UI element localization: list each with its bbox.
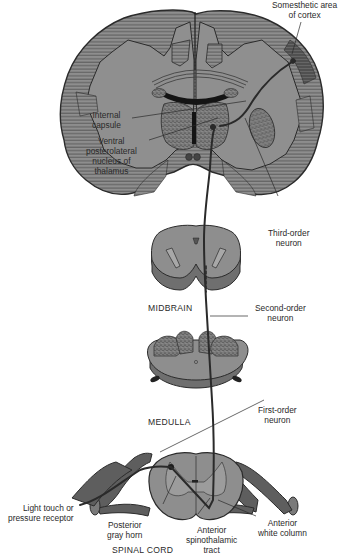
label-line: capsule [92,120,121,130]
label-line: nucleus of [86,156,137,166]
medulla-section [147,331,248,388]
label-line: Light touch or [8,503,74,513]
label-line: neuron [255,313,306,323]
label-anterior-white-column: Anterior white column [258,518,307,538]
label-line: Anterior [258,518,307,528]
neural-pathway-diagram [0,0,352,560]
label-internal-capsule: Internal capsule [92,110,121,130]
label-line: Anterior [186,525,237,535]
label-vpl-nucleus: Ventral posterolateral nucleus of thalam… [86,136,137,176]
label-line: Second-order [255,303,306,313]
region-label-midbrain: MIDBRAIN [148,303,192,313]
label-third-order-neuron: Third-order neuron [268,228,309,248]
label-line: Somesthetic area [272,0,337,10]
region-label-spinal-cord: SPINAL CORD [112,545,173,555]
label-line: gray horn [107,530,142,540]
label-line: spinothalamic [186,535,237,545]
label-line: thalamus [86,166,137,176]
label-line: neuron [258,415,297,425]
label-line: tract [186,545,237,555]
label-line: Internal [92,110,121,120]
label-anterior-spinothalamic-tract: Anterior spinothalamic tract [186,525,237,555]
label-somesthetic-area: Somesthetic area of cortex [272,0,337,20]
label-first-order-neuron: First-order neuron [258,405,297,425]
label-line: Posterior [107,520,142,530]
label-line: of cortex [272,10,337,20]
label-line: First-order [258,405,297,415]
label-line: Ventral [86,136,137,146]
label-line: pressure receptor [8,513,74,523]
label-line: posterolateral [86,146,137,156]
region-label-medulla: MEDULLA [148,417,191,427]
label-posterior-gray-horn: Posterior gray horn [107,520,142,540]
midbrain-section [151,225,240,290]
label-line: white column [258,528,307,538]
second-order-neuron-path [171,130,214,508]
label-receptor: Light touch or pressure receptor [8,503,74,523]
label-line: Third-order [268,228,309,238]
spinal-cord-section [72,453,298,520]
label-line: neuron [268,238,309,248]
label-second-order-neuron: Second-order neuron [255,303,306,323]
